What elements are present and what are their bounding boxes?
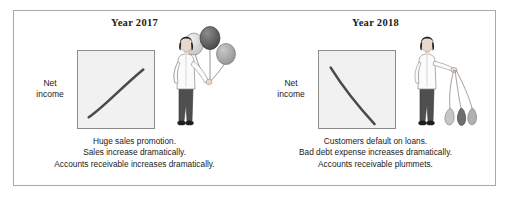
deflated-balloons-icon [403, 25, 493, 137]
figure-root: Year 2017 Net income [0, 0, 510, 211]
caption-2017: Huge sales promotion. Sales increase dra… [14, 136, 255, 170]
art-woman-with-deflated-balloons [403, 25, 493, 137]
axis-label-line2: income [277, 89, 304, 99]
caption-line: Huge sales promotion. [14, 136, 255, 147]
caption-line: Customers default on loans. [255, 136, 496, 147]
caption-line: Accounts receivable plummets. [255, 159, 496, 170]
caption-2018: Customers default on loans. Bad debt exp… [255, 136, 496, 170]
art-woman-with-inflated-balloons [162, 25, 252, 137]
trend-line-rising-icon [78, 51, 154, 128]
panel-year-2017: Year 2017 Net income [14, 11, 255, 185]
chart-plot-2017 [77, 50, 155, 129]
caption-line: Sales increase dramatically. [14, 147, 255, 158]
axis-label-net-income-2018: Net income [267, 78, 315, 100]
chart-plot-2018 [318, 50, 396, 129]
axis-label-net-income-2017: Net income [26, 78, 74, 100]
axis-label-line1: Net [43, 78, 56, 88]
caption-line: Accounts receivable increases dramatical… [14, 159, 255, 170]
inflated-balloons-icon [162, 25, 252, 137]
caption-line: Bad debt expense increases dramatically. [255, 147, 496, 158]
trend-line-falling-icon [319, 51, 395, 128]
axis-label-line2: income [36, 89, 63, 99]
illustration-panel: Year 2017 Net income [13, 10, 496, 186]
axis-label-line1: Net [284, 78, 297, 88]
panel-year-2018: Year 2018 Net income [255, 11, 496, 185]
